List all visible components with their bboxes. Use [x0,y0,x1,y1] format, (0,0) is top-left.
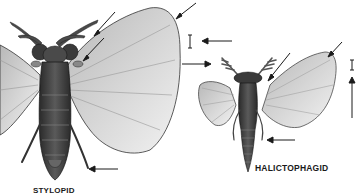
stylopid-specimen [0,8,180,180]
specimen-label-stylopid: STYLOPID [33,186,75,193]
specimen-label-halictophagid: HALICTOPHAGID [255,163,328,173]
halictophagid-specimen [199,52,337,172]
scale-bar-right [350,60,354,70]
figure: HALICTOPHAGID STYLOPID [0,0,357,193]
scale-bar-left [188,35,192,48]
